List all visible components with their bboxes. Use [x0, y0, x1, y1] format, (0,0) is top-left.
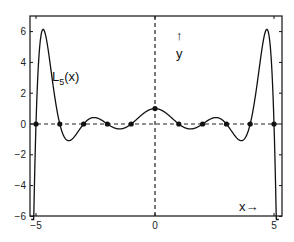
node-marker [33, 121, 38, 126]
function-label: L5(x) [52, 69, 79, 87]
x-tick-label: 5 [271, 220, 277, 231]
node-marker [129, 121, 134, 126]
node-marker [271, 121, 276, 126]
y-tick-label: 2 [20, 88, 26, 99]
node-marker [248, 121, 253, 126]
node-marker [81, 121, 86, 126]
dashed-axes [30, 16, 282, 216]
plot-frame [30, 16, 282, 216]
node-marker [105, 121, 110, 126]
y-tick-label: −2 [15, 149, 27, 160]
y-tick-label: −6 [15, 211, 27, 222]
x-axis-label: x→ [239, 199, 259, 214]
y-tick-label: 4 [20, 57, 26, 68]
node-marker [200, 121, 205, 126]
x-tick-label: −5 [30, 220, 42, 231]
y-tick-label: −4 [15, 180, 27, 191]
lagrange-plot: −6−4−20246−505 L5(x) ↑ y x→ [0, 0, 294, 242]
node-marker [152, 106, 157, 111]
y-axis-label: y [176, 46, 183, 61]
node-marker [176, 121, 181, 126]
y-tick-label: 6 [20, 26, 26, 37]
y-tick-label: 0 [20, 119, 26, 130]
node-marker [57, 121, 62, 126]
y-arrow-icon: ↑ [176, 28, 183, 43]
x-tick-label: 0 [152, 220, 158, 231]
node-marker [224, 121, 229, 126]
